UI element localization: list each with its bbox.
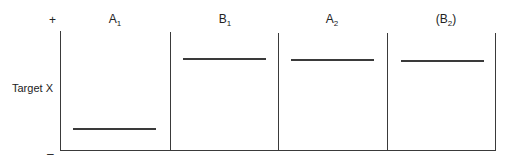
y-axis-line bbox=[60, 31, 61, 151]
y-axis-minus-marker: – bbox=[47, 148, 54, 159]
level-line-a2 bbox=[291, 59, 374, 61]
phase-label-b2: (B2) bbox=[436, 12, 456, 26]
phase-label-a1: A1 bbox=[109, 12, 121, 26]
phase-divider-3 bbox=[387, 33, 388, 151]
y-axis-label: Target X bbox=[12, 82, 53, 94]
level-line-a1 bbox=[73, 128, 156, 130]
level-line-b1 bbox=[183, 58, 266, 60]
y-axis-plus-marker: + bbox=[49, 14, 56, 26]
level-line-b2 bbox=[401, 60, 484, 62]
phase-divider-2 bbox=[278, 33, 279, 151]
right-edge-line bbox=[495, 33, 496, 151]
x-axis-baseline bbox=[60, 150, 496, 151]
phase-label-b1: B1 bbox=[219, 12, 231, 26]
phase-divider-1 bbox=[170, 32, 171, 150]
phase-label-a2: A2 bbox=[326, 12, 338, 26]
